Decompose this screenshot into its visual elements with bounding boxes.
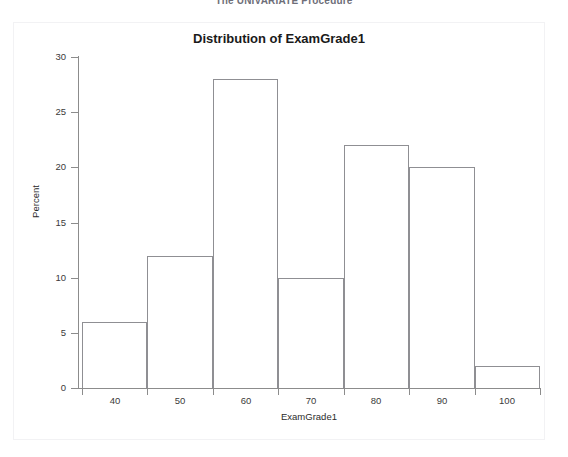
- graph-frame: [13, 22, 545, 440]
- chart-title: Distribution of ExamGrade1: [13, 31, 545, 46]
- procedure-header: The UNIVARIATE Procedure: [0, 0, 568, 4]
